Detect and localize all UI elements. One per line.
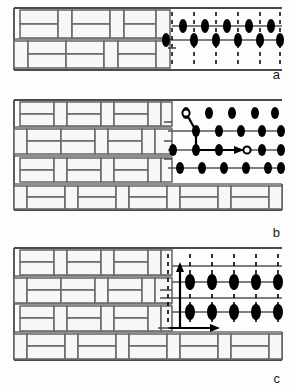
panel-c-label: c <box>274 372 281 385</box>
panel-b-lattice <box>164 107 285 174</box>
panel-c-lattice <box>158 254 283 332</box>
panel-a-label: a <box>273 68 280 81</box>
panel-c: c <box>0 244 294 386</box>
panel-b-arrow-end-marker <box>243 146 250 153</box>
panel-c-arrowhead-up <box>176 262 184 272</box>
panel-a: a <box>0 0 294 92</box>
panel-b-label: b <box>273 226 280 239</box>
panel-c-graphic <box>0 244 294 386</box>
panel-b-graphic <box>0 96 294 236</box>
figure-canvas: a <box>0 0 294 386</box>
panel-c-dashed-lines <box>168 254 278 326</box>
panel-b: b <box>0 96 294 236</box>
panel-b-masonry <box>14 100 282 210</box>
panel-b-arrow-start-marker <box>182 109 189 116</box>
panel-c-arrowhead-right <box>210 324 220 332</box>
panel-c-masonry <box>14 248 282 360</box>
panel-b-dots-row-1 <box>182 107 279 119</box>
panel-a-graphic <box>0 0 294 92</box>
